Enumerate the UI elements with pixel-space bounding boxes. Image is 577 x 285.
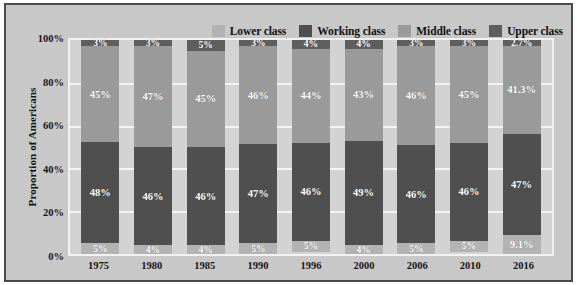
bar-segment-middle-class[interactable]: 41.3% [503,46,541,134]
legend-label: Lower class [230,25,287,37]
bar-segment-label: 49% [353,187,374,198]
x-axis-tick-label: 1996 [292,260,330,271]
bar-segment-label: 41.3% [507,84,536,95]
bar-segment-label: 47% [142,91,163,102]
bar-segment-upper-class[interactable]: 4% [345,40,383,49]
bar-segment-working-class[interactable]: 46% [397,145,435,243]
bar-segment-lower-class[interactable]: 5% [397,243,435,254]
bar-segment-lower-class[interactable]: 5% [450,241,488,252]
legend-item-working-class[interactable]: Working class [299,25,385,37]
legend-label: Upper class [507,25,563,37]
bar-segment-middle-class[interactable]: 45% [450,46,488,142]
x-axis-tick-label: 2016 [504,260,542,271]
bar-column[interactable]: 5%45%46%4% [187,40,225,254]
bar-segment-label: 46% [195,191,216,202]
bar-segment-middle-class[interactable]: 47% [134,46,172,147]
legend-label: Middle class [416,25,476,37]
y-axis-tick-label: 20% [24,207,64,218]
bar-segment-lower-class[interactable]: 5% [239,243,277,254]
bar-segment-label: 4% [199,245,213,255]
bar-segment-lower-class[interactable]: 9.1% [503,235,541,254]
legend-swatch-middle-class [398,25,411,37]
bar-segment-label: 43% [353,89,374,100]
bar-column[interactable]: 4%43%49%4% [345,40,383,254]
bar-segment-middle-class[interactable]: 46% [239,46,277,143]
bar-segment-label: 5% [304,241,318,251]
bar-segment-upper-class[interactable]: 5% [187,40,225,51]
bar-column[interactable]: 3%45%48%5% [81,40,119,254]
x-axis-tick-label: 1980 [133,260,171,271]
bar-segment-working-class[interactable]: 46% [134,147,172,245]
legend-item-lower-class[interactable]: Lower class [212,25,287,37]
bar-segment-working-class[interactable]: 46% [292,143,330,241]
chart-legend: Lower classWorking classMiddle classUppe… [212,23,563,38]
y-axis-tick-label: 80% [24,76,64,87]
bar-segment-lower-class[interactable]: 4% [187,245,225,254]
bar-segment-label: 5% [409,244,423,254]
x-axis-tick-label: 2006 [398,260,436,271]
bar-segment-label: 46% [142,191,163,202]
bar-segment-lower-class[interactable]: 5% [81,243,119,254]
y-axis-tick-labels: 0%20%40%60%80%100% [24,38,64,256]
bar-segment-label: 46% [406,189,427,200]
bar-segment-label: 47% [248,188,269,199]
y-axis-tick-label: 0% [24,251,64,262]
bar-segment-middle-class[interactable]: 44% [292,49,330,143]
x-axis-tick-labels: 197519801985199019962000200620102016 [68,260,554,271]
bar-segment-label: 46% [458,186,479,197]
bar-segment-label: 46% [300,186,321,197]
bar-segment-lower-class[interactable]: 4% [134,245,172,254]
stacked-bar-series: 3%45%48%5%3%47%46%4%5%45%46%4%3%46%47%5%… [70,40,552,254]
bar-segment-working-class[interactable]: 46% [187,147,225,245]
bar-segment-label: 45% [90,89,111,100]
x-axis-tick-label: 1990 [239,260,277,271]
bar-segment-middle-class[interactable]: 45% [187,51,225,147]
bar-column[interactable]: 3%46%46%5% [397,40,435,254]
bar-column[interactable]: 3%46%47%5% [239,40,277,254]
bar-segment-label: 44% [300,90,321,101]
bar-segment-label: 45% [195,93,216,104]
legend-swatch-working-class [299,25,312,37]
legend-swatch-upper-class [489,25,502,37]
bar-segment-working-class[interactable]: 47% [503,134,541,234]
x-axis-tick-label: 2010 [451,260,489,271]
bar-segment-middle-class[interactable]: 43% [345,49,383,141]
bar-segment-label: 9.1% [510,239,534,250]
legend-item-upper-class[interactable]: Upper class [489,25,563,37]
chart-container: Lower classWorking classMiddle classUppe… [4,3,573,282]
bar-segment-middle-class[interactable]: 45% [81,46,119,141]
bar-segment-working-class[interactable]: 49% [345,141,383,246]
bar-segment-label: 47% [511,179,532,190]
bar-segment-working-class[interactable]: 46% [450,143,488,241]
bar-segment-label: 5% [93,244,107,254]
bar-segment-label: 4% [146,245,160,255]
plot-area: 3%45%48%5%3%47%46%4%5%45%46%4%3%46%47%5%… [68,38,554,256]
bar-column[interactable]: 3%47%46%4% [134,40,172,254]
y-axis-tick-label: 60% [24,120,64,131]
bar-segment-label: 46% [406,90,427,101]
bar-segment-label: 4% [356,245,370,255]
x-axis-tick-label: 1975 [80,260,118,271]
bar-column[interactable]: 4%44%46%5% [292,40,330,254]
bar-segment-label: 5% [199,40,213,50]
bar-segment-label: 5% [462,241,476,251]
bar-segment-working-class[interactable]: 48% [81,142,119,244]
bar-segment-middle-class[interactable]: 46% [397,46,435,144]
bar-segment-working-class[interactable]: 47% [239,144,277,244]
bar-column[interactable]: 3%45%46%5% [450,40,488,254]
bar-segment-label: 45% [458,89,479,100]
legend-swatch-lower-class [212,25,225,37]
x-axis-tick-label: 2000 [345,260,383,271]
bar-segment-lower-class[interactable]: 4% [345,245,383,254]
bar-segment-label: 5% [251,244,265,254]
bar-segment-lower-class[interactable]: 5% [292,241,330,252]
y-axis-tick-label: 40% [24,163,64,174]
bar-segment-label: 46% [248,90,269,101]
x-axis-tick-label: 1985 [186,260,224,271]
legend-item-middle-class[interactable]: Middle class [398,25,476,37]
y-axis-tick-label: 100% [24,33,64,44]
bar-column[interactable]: 2.7%41.3%47%9.1% [503,40,541,254]
bar-segment-label: 48% [90,187,111,198]
legend-label: Working class [317,25,385,37]
bar-segment-upper-class[interactable]: 4% [292,40,330,49]
